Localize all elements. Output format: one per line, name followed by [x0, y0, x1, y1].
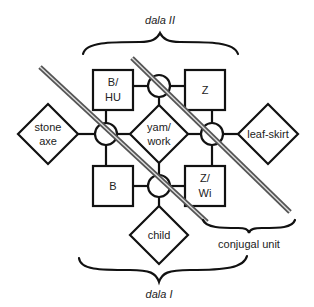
svg-text:Z: Z — [202, 84, 209, 96]
box-z-wi: Z/ Wi — [185, 166, 225, 206]
conjugal-unit-label: conjugal unit — [218, 238, 280, 250]
svg-text:work: work — [146, 135, 171, 147]
svg-text:Wi: Wi — [199, 187, 212, 199]
svg-text:child: child — [148, 229, 171, 241]
svg-text:Z/: Z/ — [200, 172, 211, 184]
svg-text:leaf-skirt: leaf-skirt — [247, 128, 289, 140]
dala-ii-label: dala II — [145, 14, 175, 26]
conjugal-unit-brace — [203, 220, 295, 233]
svg-text:axe: axe — [39, 135, 57, 147]
diamond-stone-axe: stone axe — [18, 104, 78, 164]
svg-text:B/: B/ — [108, 76, 119, 88]
svg-text:yam/: yam/ — [147, 121, 172, 133]
dala-i-label: dala I — [146, 288, 173, 300]
box-b-hu: B/ HU — [93, 70, 133, 110]
box-b: B — [93, 166, 133, 206]
svg-text:stone: stone — [35, 121, 62, 133]
box-z: Z — [185, 70, 225, 110]
diamond-leaf-skirt: leaf-skirt — [238, 104, 298, 164]
diamond-yam-work: yam/ work — [130, 105, 188, 163]
dala-ii-brace — [83, 33, 238, 54]
kinship-exchange-diagram: dala II B/ HU — [0, 0, 314, 307]
diamond-child: child — [130, 206, 188, 264]
svg-text:B: B — [109, 180, 116, 192]
svg-text:HU: HU — [105, 91, 121, 103]
